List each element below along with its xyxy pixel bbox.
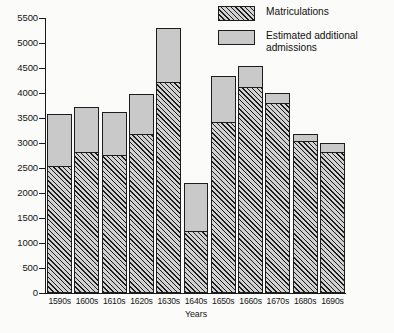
y-axis-tick-label: 4000: [2, 88, 38, 97]
bar-segment-estimated-additional-admissions: [238, 66, 263, 88]
bar-1620s: [129, 94, 154, 294]
bar-segment-estimated-additional-admissions: [293, 134, 318, 142]
y-axis-tick-label: 3500: [2, 113, 38, 122]
y-axis-tick: [39, 168, 46, 169]
bar-1630s: [156, 28, 181, 293]
bar-1690s: [320, 143, 345, 293]
bar-1610s: [102, 112, 127, 294]
y-axis-tick: [39, 193, 46, 194]
bar-segment-matriculations: [238, 87, 263, 293]
y-axis-tick-label: 1000: [2, 238, 38, 247]
y-axis-tick: [39, 93, 46, 94]
legend-item-matriculations: Matriculations: [218, 6, 390, 21]
x-axis-label-1640s: 1640s: [182, 296, 209, 307]
bar-1660s: [238, 66, 263, 293]
y-axis-tick-label: 1500: [2, 213, 38, 222]
legend-label-matriculations: Matriculations: [266, 6, 329, 18]
bar-segment-matriculations: [293, 141, 318, 294]
x-axis-label-1670s: 1670s: [264, 296, 291, 307]
y-axis-tick-label: 3000: [2, 138, 38, 147]
y-axis-tick: [39, 18, 46, 19]
x-axis-label-1650s: 1650s: [210, 296, 237, 307]
y-axis-tick-label: 5000: [2, 38, 38, 47]
bar-chart: 0500100015002000250030003500400045005000…: [0, 0, 394, 333]
bar-segment-matriculations: [102, 155, 127, 294]
bar-segment-matriculations: [74, 152, 99, 293]
bar-1680s: [293, 134, 318, 293]
bar-segment-matriculations: [265, 103, 290, 293]
y-axis-tick: [39, 218, 46, 219]
bar-1670s: [265, 93, 290, 293]
bar-segment-matriculations: [320, 152, 345, 294]
x-axis-label-1610s: 1610s: [101, 296, 128, 307]
bar-1650s: [211, 76, 236, 293]
y-axis-labels: 0500100015002000250030003500400045005000…: [0, 0, 38, 333]
bar-segment-estimated-additional-admissions: [211, 76, 236, 123]
y-axis-tick: [39, 268, 46, 269]
x-axis-line: [45, 293, 346, 294]
y-axis-tick-label: 2000: [2, 188, 38, 197]
bar-segment-matriculations: [184, 231, 209, 294]
x-axis-label-1680s: 1680s: [291, 296, 318, 307]
bar-1640s: [184, 183, 209, 293]
bar-segment-estimated-additional-admissions: [156, 28, 181, 83]
y-axis-tick: [39, 68, 46, 69]
bar-segment-estimated-additional-admissions: [74, 107, 99, 154]
hatched-swatch-icon: [218, 6, 255, 21]
x-axis-label-1590s: 1590s: [46, 296, 73, 307]
y-axis-tick-label: 4500: [2, 63, 38, 72]
y-axis-tick-label: 500: [2, 263, 38, 272]
bar-segment-estimated-additional-admissions: [102, 112, 127, 156]
legend-item-estimated-additional-admissions: Estimated additional admissions: [218, 30, 390, 53]
bar-segment-estimated-additional-admissions: [47, 114, 72, 167]
y-axis-tick-label: 2500: [2, 163, 38, 172]
chart-legend: Matriculations Estimated additional admi…: [218, 6, 390, 62]
x-axis-label-1620s: 1620s: [128, 296, 155, 307]
bar-segment-matriculations: [129, 134, 154, 294]
legend-label-estimated-additional-admissions: Estimated additional admissions: [266, 30, 384, 53]
bar-segment-estimated-additional-admissions: [184, 183, 209, 232]
bar-segment-matriculations: [47, 166, 72, 294]
solid-swatch-icon: [218, 30, 255, 45]
y-axis-tick: [39, 43, 46, 44]
x-axis-label-1600s: 1600s: [73, 296, 100, 307]
y-axis-tick-label: 5500: [2, 13, 38, 22]
y-axis-tick: [39, 293, 46, 294]
y-axis-tick: [39, 118, 46, 119]
x-axis-label-1690s: 1690s: [319, 296, 346, 307]
bar-segment-estimated-additional-admissions: [129, 94, 154, 135]
bar-1600s: [74, 107, 99, 294]
x-axis-labels: 1590s1600s1610s1620s1630s1640s1650s1660s…: [46, 296, 346, 310]
bar-segment-estimated-additional-admissions: [265, 93, 290, 104]
bar-1590s: [47, 114, 72, 293]
x-axis-label-1630s: 1630s: [155, 296, 182, 307]
bar-segment-matriculations: [211, 122, 236, 294]
y-axis-tick: [39, 243, 46, 244]
y-axis-tick-label: 0: [2, 288, 38, 297]
y-axis-tick: [39, 143, 46, 144]
x-axis-label-1660s: 1660s: [237, 296, 264, 307]
bar-segment-estimated-additional-admissions: [320, 143, 345, 153]
bar-segment-matriculations: [156, 82, 181, 294]
x-axis-title: Years: [46, 309, 346, 319]
